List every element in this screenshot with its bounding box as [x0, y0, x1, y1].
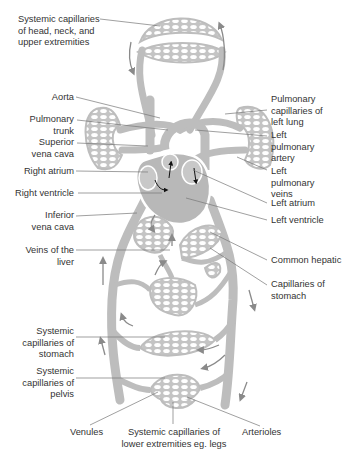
label-venules: Venules [70, 427, 103, 439]
label-left-ventricle: Left ventricle [271, 215, 324, 227]
right-lung-capillaries [86, 108, 123, 170]
label-left-pulmonary-veins: Left pulmonary veins [271, 166, 314, 201]
label-systemic-capillaries-pelvis: Systemic capillaries of pelvis [0, 366, 74, 401]
label-superior-vena-cava: Superior vena cava [10, 137, 74, 160]
label-left-atrium: Left atrium [271, 198, 315, 210]
label-head-capillaries: Systemic capillaries of head, neck, and … [18, 14, 100, 49]
label-inferior-vena-cava: Inferior vena cava [10, 210, 74, 233]
label-veins-of-liver: Veins of the liver [0, 245, 74, 268]
label-pulmonary-capillaries-left-lung: Pulmonary capillaries of left lung [271, 94, 323, 129]
label-lower-extremity-capillaries: Systemic capillaries of lower extremitie… [118, 427, 230, 450]
label-capillaries-of-stomach: Capillaries of stomach [271, 279, 325, 302]
systemic-stomach-capillaries [140, 331, 215, 355]
pelvis-capillaries [150, 375, 200, 408]
label-systemic-capillaries-stomach: Systemic capillaries of stomach [0, 326, 74, 361]
label-right-atrium: Right atrium [0, 166, 74, 178]
label-right-ventricle: Right ventricle [0, 188, 74, 200]
label-pulmonary-trunk: Pulmonary trunk [10, 114, 74, 137]
label-arterioles: Arterioles [242, 427, 281, 439]
heart [136, 153, 210, 224]
label-common-hepatic: Common hepatic [271, 255, 341, 267]
label-left-pulmonary-artery: Left pulmonary artery [271, 130, 314, 165]
label-aorta: Aorta [20, 92, 74, 104]
main-trunks [112, 100, 234, 405]
liver-capillaries [134, 217, 173, 253]
intestine-capillaries [150, 278, 196, 315]
